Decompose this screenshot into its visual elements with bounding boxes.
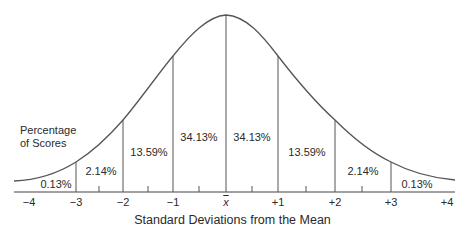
- tick-label-plus1: +1: [272, 196, 285, 208]
- pct-label-plus3-plus4: 0.13%: [401, 178, 432, 190]
- y-axis-label: Percentage of Scores: [20, 124, 76, 150]
- x-axis-label: Standard Deviations from the Mean: [0, 213, 465, 227]
- pct-label-minus3-minus2: 2.14%: [85, 165, 116, 177]
- pct-label-plus2-plus3: 2.14%: [347, 165, 378, 177]
- pct-label-mean-plus1: 34.13%: [233, 131, 270, 143]
- normal-curve: [14, 15, 455, 181]
- tick-label-plus4: +4: [441, 196, 454, 208]
- pct-label-minus2-minus1: 13.59%: [130, 146, 167, 158]
- tick-label-minus1: −1: [167, 196, 180, 208]
- tick-label-plus2: +2: [329, 196, 342, 208]
- y-axis-label-line1: Percentage: [20, 124, 76, 137]
- tick-label-mean: x: [223, 196, 229, 208]
- pct-label-minus1-mean: 34.13%: [180, 131, 217, 143]
- minor-ticks: [99, 186, 362, 192]
- tick-label-plus3: +3: [385, 196, 398, 208]
- tick-label-minus3: −3: [70, 196, 83, 208]
- pct-label-minus4-minus3: 0.13%: [40, 178, 71, 190]
- tick-label-minus2: −2: [117, 196, 130, 208]
- tick-label-minus4: −4: [23, 196, 36, 208]
- pct-label-plus1-plus2: 13.59%: [288, 146, 325, 158]
- y-axis-label-line2: of Scores: [20, 137, 76, 150]
